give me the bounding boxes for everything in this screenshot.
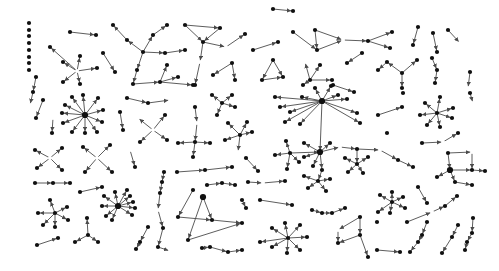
graph-node bbox=[470, 168, 474, 172]
graph-edge bbox=[148, 100, 170, 103]
graph-node bbox=[311, 164, 315, 168]
graph-node bbox=[324, 189, 328, 193]
graph-node bbox=[281, 75, 285, 79]
graph-node bbox=[450, 116, 454, 120]
graph-node bbox=[366, 39, 370, 43]
graph-edge bbox=[212, 220, 242, 223]
graph-edge bbox=[448, 152, 472, 153]
graph-node bbox=[343, 156, 347, 160]
graph-node bbox=[358, 233, 362, 237]
graph-open-node bbox=[458, 41, 462, 45]
graph-node bbox=[329, 84, 333, 88]
graph-open-node bbox=[341, 38, 345, 42]
graph-edge bbox=[413, 27, 418, 45]
graph-node bbox=[240, 248, 244, 252]
graph-node bbox=[465, 240, 469, 244]
graph-node bbox=[33, 181, 37, 185]
graph-node bbox=[146, 225, 150, 229]
graph-node bbox=[193, 140, 197, 144]
graph-node bbox=[83, 170, 87, 174]
graph-node bbox=[318, 63, 322, 67]
graph-node bbox=[446, 151, 450, 155]
graph-node bbox=[101, 51, 105, 55]
graph-edge bbox=[305, 62, 310, 80]
graph-open-node bbox=[168, 98, 172, 102]
graph-edge bbox=[343, 40, 368, 41]
graph-edge bbox=[85, 158, 97, 172]
graph-edge bbox=[273, 9, 293, 11]
graph-node bbox=[220, 181, 224, 185]
graph-edge bbox=[140, 227, 148, 242]
graph-node bbox=[385, 60, 389, 64]
graph-hub-node bbox=[317, 149, 323, 155]
graph-node bbox=[360, 51, 364, 55]
graph-edge bbox=[287, 238, 288, 253]
graph-node bbox=[300, 95, 304, 99]
graph-node bbox=[425, 201, 429, 205]
graph-node bbox=[345, 61, 349, 65]
graph-node bbox=[416, 25, 420, 29]
graph-node bbox=[453, 180, 457, 184]
graph-node bbox=[258, 240, 262, 244]
graph-node bbox=[270, 226, 274, 230]
graph-node bbox=[240, 198, 244, 202]
graph-open-node bbox=[236, 150, 240, 154]
graph-node bbox=[405, 220, 409, 224]
graph-node bbox=[291, 9, 295, 13]
graph-node bbox=[205, 183, 209, 187]
graph-node bbox=[83, 131, 87, 135]
graph-edge bbox=[205, 167, 232, 170]
graph-node bbox=[133, 165, 137, 169]
graph-node bbox=[226, 250, 230, 254]
graph-edge bbox=[402, 60, 417, 73]
graph-node bbox=[191, 155, 195, 159]
graph-node bbox=[104, 214, 108, 218]
graph-edge bbox=[427, 113, 437, 125]
graph-node bbox=[63, 103, 67, 107]
graph-edge bbox=[260, 200, 292, 205]
graph-edge bbox=[203, 42, 226, 47]
graph-node bbox=[35, 166, 39, 170]
graph-node bbox=[443, 204, 447, 208]
graph-node bbox=[176, 215, 180, 219]
graph-open-node bbox=[151, 128, 155, 132]
graph-node bbox=[27, 61, 31, 65]
graph-edge bbox=[288, 237, 307, 238]
graph-edge bbox=[317, 40, 343, 50]
graph-edge bbox=[280, 101, 322, 107]
graph-edge bbox=[213, 63, 232, 75]
graph-edge bbox=[85, 98, 98, 115]
graph-node bbox=[246, 180, 250, 184]
graph-node bbox=[210, 93, 214, 97]
graph-node bbox=[238, 133, 242, 137]
graph-node bbox=[298, 122, 302, 126]
graph-edge bbox=[210, 247, 228, 252]
graph-edge bbox=[195, 107, 197, 123]
graph-open-node bbox=[51, 116, 55, 120]
graph-edge bbox=[310, 65, 320, 80]
graph-open-node bbox=[303, 60, 307, 64]
graph-node bbox=[113, 70, 117, 74]
graph-node bbox=[388, 46, 392, 50]
graph-node bbox=[283, 179, 287, 183]
graph-edge bbox=[275, 153, 290, 155]
graph-edge bbox=[232, 63, 235, 80]
graph-node bbox=[65, 205, 69, 209]
graph-node bbox=[420, 233, 424, 237]
node-layer bbox=[27, 7, 487, 259]
graph-node bbox=[223, 138, 227, 142]
graph-edge bbox=[50, 47, 77, 71]
graph-node bbox=[125, 96, 129, 100]
graph-node bbox=[451, 106, 455, 110]
graph-edge bbox=[52, 118, 53, 133]
graph-edge bbox=[288, 238, 300, 250]
graph-edge bbox=[315, 30, 343, 40]
graph-node bbox=[313, 28, 317, 32]
graph-edge bbox=[248, 182, 263, 183]
graph-edge bbox=[225, 135, 240, 140]
graph-node bbox=[302, 141, 306, 145]
graph-node bbox=[163, 51, 167, 55]
graph-node bbox=[215, 113, 219, 117]
graph-edge bbox=[253, 42, 278, 50]
graph-edge bbox=[357, 149, 380, 150]
